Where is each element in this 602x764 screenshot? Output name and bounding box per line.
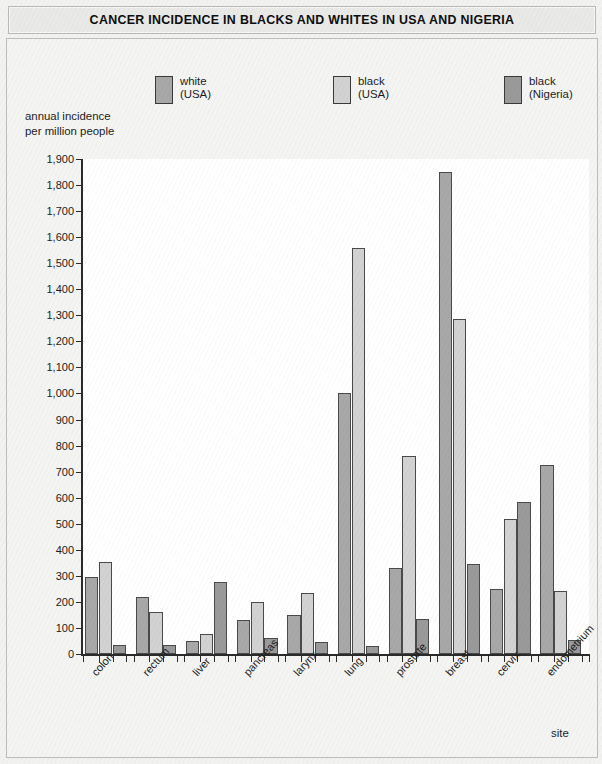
y-axis-tick [76,393,83,394]
y-axis-tick [76,185,83,186]
bar-prostate-1[interactable] [402,456,415,654]
y-axis-tick-label: 1,900 [46,153,74,165]
y-axis-tick-label: 1,300 [46,309,74,321]
y-axis-tick [76,498,83,499]
bar-breast-2[interactable] [467,564,480,654]
y-axis-tick [76,420,83,421]
legend-label-line1-2: black [529,75,573,88]
y-axis-tick [76,263,83,264]
x-axis-label-liver: liver [190,655,212,678]
y-axis-tick-label: 0 [68,648,74,660]
y-axis-tick [76,576,83,577]
x-axis-tick [126,654,127,662]
y-axis-tick [76,341,83,342]
bar-breast-0[interactable] [439,172,452,654]
bar-colon-2[interactable] [113,645,126,654]
x-axis-tick [582,654,583,662]
bar-larynx-1[interactable] [301,593,314,654]
x-axis-label-colon: colon [89,650,116,678]
legend-item-1[interactable]: black(USA) [333,75,389,104]
bar-liver-1[interactable] [200,634,213,654]
bar-colon-0[interactable] [85,577,98,654]
legend-label-line2-0: (USA) [180,88,211,101]
y-axis-tick-label: 900 [56,414,74,426]
y-axis-tick-label: 1,500 [46,257,74,269]
bar-cervix-2[interactable] [517,502,530,654]
y-axis-tick [76,315,83,316]
y-axis-caption-line2: per million people [25,124,114,139]
x-axis-tick [278,654,279,662]
x-axis-tick [481,654,482,662]
legend-swatch-icon-1 [333,76,351,104]
bar-lung-0[interactable] [338,393,351,654]
y-axis-tick-label: 300 [56,570,74,582]
x-axis-tick [228,654,229,662]
x-axis-title: site [551,727,569,739]
y-axis-tick [76,524,83,525]
bar-endometrium-0[interactable] [540,465,553,654]
y-axis-tick-label: 400 [56,544,74,556]
bar-liver-0[interactable] [186,641,199,654]
legend-label-line1-0: white [180,75,211,88]
x-axis-tick [379,654,380,662]
x-axis-tick [329,654,330,662]
y-axis-tick-label: 200 [56,596,74,608]
bar-larynx-0[interactable] [287,615,300,654]
bar-cervix-1[interactable] [504,519,517,654]
y-axis-tick-label: 500 [56,518,74,530]
bar-rectum-0[interactable] [136,597,149,654]
y-axis-tick-label: 600 [56,492,74,504]
chart-title-bar: CANCER INCIDENCE IN BLACKS AND WHITES IN… [8,6,596,34]
legend-swatch-icon-2 [504,76,522,104]
y-axis-tick [76,654,83,655]
y-axis-tick-label: 1,100 [46,361,74,373]
bar-colon-1[interactable] [99,562,112,654]
y-axis-tick-label: 1,700 [46,205,74,217]
legend-label-0: white(USA) [180,75,211,101]
bar-pancreas-0[interactable] [237,620,250,654]
x-axis-tick [589,654,590,662]
legend-item-0[interactable]: white(USA) [155,75,211,104]
bar-liver-2[interactable] [214,582,227,654]
x-axis-tick [285,654,286,662]
x-axis-tick [366,654,367,662]
y-axis-tick-label: 700 [56,466,74,478]
x-axis-tick [538,654,539,662]
y-axis-tick-label: 1,600 [46,231,74,243]
x-axis-tick [134,654,135,662]
bar-larynx-2[interactable] [315,642,328,654]
y-axis-tick-label: 100 [56,622,74,634]
y-axis-tick-label: 800 [56,440,74,452]
legend-label-line2-1: (USA) [358,88,389,101]
legend-label-line2-2: (Nigeria) [529,88,573,101]
bar-cervix-0[interactable] [490,589,503,654]
y-axis-tick-label: 1,800 [46,179,74,191]
y-axis-tick-label: 1,000 [46,387,74,399]
legend-swatch-icon-0 [155,76,173,104]
x-axis-tick [177,654,178,662]
x-axis-tick [235,654,236,662]
x-axis-tick [387,654,388,662]
x-axis-tick [184,654,185,662]
y-axis-caption-line1: annual incidence [25,109,114,124]
bar-prostate-0[interactable] [389,568,402,654]
x-axis-tick [336,654,337,662]
legend-label-line1-1: black [358,75,389,88]
x-axis-tick [430,654,431,662]
bar-lung-1[interactable] [352,248,365,654]
chart-panel: white(USA)black(USA)black(Nigeria) annua… [6,38,598,758]
y-axis-tick [76,211,83,212]
y-axis-tick [76,237,83,238]
plot-wrapper: 01002003004005006007008009001,0001,1001,… [21,149,587,669]
y-axis-tick [76,602,83,603]
legend-item-2[interactable]: black(Nigeria) [504,75,573,104]
y-axis-tick [76,446,83,447]
x-axis-tick [531,654,532,662]
bar-lung-2[interactable] [366,646,379,654]
x-axis-tick [488,654,489,662]
y-axis-tick [76,550,83,551]
y-axis-tick [76,289,83,290]
x-axis-tick [214,654,215,662]
bar-breast-1[interactable] [453,319,466,654]
plot-area: 01002003004005006007008009001,0001,1001,… [81,159,589,656]
